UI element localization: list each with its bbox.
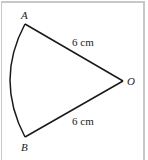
length-label-OA: 6 cm (72, 37, 94, 48)
arc-AB (10, 24, 25, 137)
sector-figure (0, 0, 148, 160)
radius-OB (25, 81, 123, 137)
length-label-OB: 6 cm (72, 116, 94, 127)
point-label-B: B (21, 142, 28, 153)
diagram-canvas: A O B 6 cm 6 cm (0, 0, 148, 160)
point-label-A: A (21, 10, 28, 21)
point-label-O: O (127, 76, 135, 87)
radius-OA (25, 24, 123, 81)
